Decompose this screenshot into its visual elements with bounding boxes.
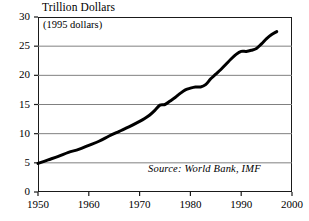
data-series-layer (0, 0, 309, 221)
x-axis-tick-label: 1980 (170, 199, 210, 210)
x-axis-tick-label: 1990 (221, 199, 261, 210)
y-axis-tick-label: 15 (0, 99, 30, 110)
x-axis-tick-label: 1970 (120, 199, 160, 210)
chart-container: Trillion Dollars (1995 dollars) Source: … (0, 0, 309, 221)
x-axis-tick-label: 1950 (18, 199, 58, 210)
source-note: Source: World Bank, IMF (148, 163, 261, 174)
y-axis-tick-label: 0 (0, 186, 30, 197)
data-line-gross-world-product (38, 32, 277, 164)
y-axis-tick-label: 25 (0, 40, 30, 51)
x-axis-tick-label: 2000 (272, 199, 309, 210)
y-axis-tick-label: 5 (0, 157, 30, 168)
y-axis-tick-label: 30 (0, 11, 30, 22)
y-axis-tick-label: 20 (0, 69, 30, 80)
x-axis-tick-label: 1960 (69, 199, 109, 210)
y-axis-tick-label: 10 (0, 128, 30, 139)
chart-subtitle: (1995 dollars) (43, 19, 102, 31)
